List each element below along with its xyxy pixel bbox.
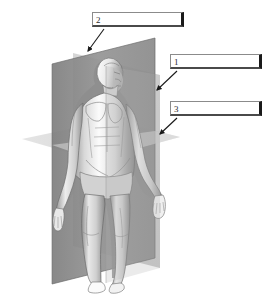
answer-box-2[interactable]: 2 [92, 12, 184, 27]
leader-line-2 [88, 29, 104, 51]
label-number-2: 2 [96, 13, 101, 27]
label-number-1: 1 [174, 55, 179, 69]
answer-box-1[interactable]: 1 [170, 54, 262, 69]
answer-blank-1[interactable] [185, 55, 257, 67]
anatomy-planes-figure: 2 1 3 [0, 0, 266, 298]
answer-blank-3[interactable] [185, 102, 257, 114]
answer-box-3[interactable]: 3 [170, 101, 262, 116]
label-number-3: 3 [174, 102, 179, 116]
answer-blank-2[interactable] [107, 13, 179, 25]
diagram-canvas [0, 0, 266, 298]
sagittal-plane-front-overlay [106, 66, 160, 283]
leader-line-3 [160, 118, 177, 134]
